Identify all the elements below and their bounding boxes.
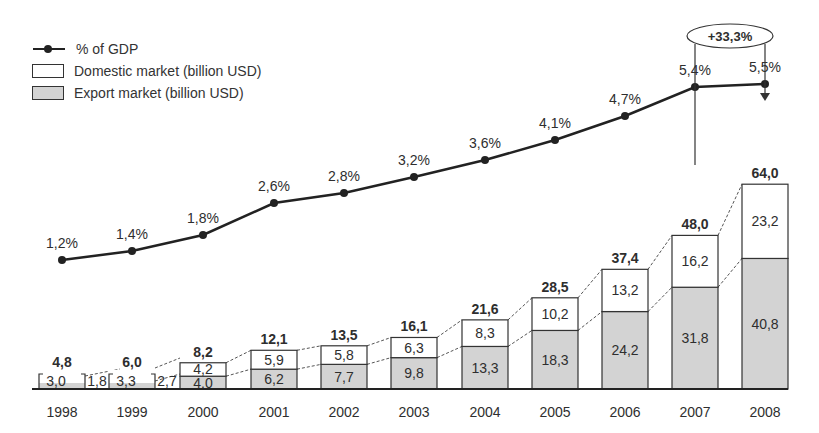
total-connector-line <box>155 358 180 368</box>
domestic-value-label: 8,3 <box>475 325 495 341</box>
total-value-label: 28,5 <box>541 279 568 295</box>
domestic-value-label: 10,2 <box>541 306 568 322</box>
x-axis-label: 1999 <box>116 404 147 420</box>
total-value-label: 16,1 <box>400 318 427 334</box>
total-connector-line <box>648 235 672 269</box>
export-connector-line <box>578 312 602 331</box>
export-value-label: 1,8 <box>87 373 107 389</box>
domestic-value-label: 16,2 <box>681 253 708 269</box>
x-axis-label: 2004 <box>469 404 500 420</box>
domestic-value-label: 4,2 <box>193 361 213 377</box>
total-value-label: 37,4 <box>611 250 638 266</box>
x-axis-label: 2001 <box>258 404 289 420</box>
total-value-label: 4,8 <box>52 354 72 370</box>
gdp-value-label: 4,7% <box>609 91 641 107</box>
x-axis-label: 1998 <box>46 404 77 420</box>
gdp-point-marker <box>621 112 629 120</box>
domestic-value-label: 6,3 <box>404 340 424 356</box>
export-connector-line <box>718 258 742 287</box>
export-value-label: 13,3 <box>471 360 498 376</box>
x-axis-label: 2007 <box>679 404 710 420</box>
total-connector-line <box>578 269 602 297</box>
export-value-label: 2,7 <box>157 373 177 389</box>
gdp-point-marker <box>340 189 348 197</box>
gdp-value-label: 4,1% <box>539 115 571 131</box>
x-axis-label: 2002 <box>328 404 359 420</box>
total-connector-line <box>437 320 462 338</box>
export-connector-line <box>648 287 672 311</box>
export-value-label: 40,8 <box>751 316 778 332</box>
total-connector-line <box>297 346 321 350</box>
export-value-label: 7,7 <box>334 369 354 385</box>
x-axis-label: 2008 <box>749 404 780 420</box>
total-connector-line <box>718 184 742 235</box>
export-value-label: 18,3 <box>541 352 568 368</box>
gdp-value-label: 1,2% <box>46 235 78 251</box>
gdp-point-marker <box>58 256 66 264</box>
growth-annotation-label: +33,3% <box>708 29 753 44</box>
domestic-value-label: 5,8 <box>334 347 354 363</box>
gdp-point-marker <box>128 247 136 255</box>
total-connector-line <box>367 337 391 345</box>
total-connector-line <box>226 350 251 362</box>
gdp-value-label: 2,8% <box>328 168 360 184</box>
total-value-label: 12,1 <box>260 331 287 347</box>
total-value-label: 13,5 <box>330 327 357 343</box>
export-connector-line <box>226 369 251 376</box>
domestic-value-label: 23,2 <box>751 213 778 229</box>
gdp-point-marker <box>481 156 489 164</box>
domestic-value-label: 13,2 <box>611 282 638 298</box>
chart-area: 3,01,84,819983,32,76,019994,04,28,220006… <box>0 0 819 433</box>
total-value-label: 8,2 <box>193 344 213 360</box>
x-axis-label: 2005 <box>539 404 570 420</box>
gdp-value-label: 1,4% <box>116 226 148 242</box>
export-value-label: 31,8 <box>681 330 708 346</box>
total-value-label: 21,6 <box>471 301 498 317</box>
gdp-line <box>62 84 765 260</box>
export-value-label: 6,2 <box>264 371 284 387</box>
x-axis-label: 2000 <box>187 404 218 420</box>
export-value-label: 24,2 <box>611 342 638 358</box>
gdp-point-marker <box>551 136 559 144</box>
gdp-point-marker <box>199 231 207 239</box>
total-value-label: 6,0 <box>122 354 142 370</box>
gdp-value-label: 3,6% <box>469 135 501 151</box>
total-connector-line <box>508 298 532 320</box>
gdp-value-label: 2,6% <box>258 178 290 194</box>
export-connector-line <box>508 330 532 346</box>
domestic-value-label: 5,9 <box>264 352 284 368</box>
export-connector-line <box>437 346 462 357</box>
export-connector-line <box>297 364 321 369</box>
domestic-value-label: 3,3 <box>116 373 136 389</box>
gdp-value-label: 3,2% <box>398 152 430 168</box>
export-value-label: 9,8 <box>404 365 424 381</box>
gdp-point-marker <box>410 173 418 181</box>
domestic-value-label: 3,0 <box>46 373 66 389</box>
gdp-value-label: 1,8% <box>187 210 219 226</box>
x-axis-label: 2006 <box>609 404 640 420</box>
arrow-down-icon <box>760 93 770 101</box>
total-value-label: 48,0 <box>681 216 708 232</box>
total-value-label: 64,0 <box>751 165 778 181</box>
x-axis-label: 2003 <box>398 404 429 420</box>
export-connector-line <box>367 358 391 365</box>
gdp-point-marker <box>270 199 278 207</box>
